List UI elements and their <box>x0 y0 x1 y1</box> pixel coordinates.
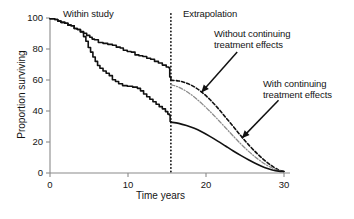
annotation-with-line2: treatment effects <box>263 89 332 100</box>
y-tick-label-100: 100 <box>17 12 43 23</box>
arrow-without-shaft <box>201 52 237 92</box>
annotation-without-continuing-treatment-effects: Without continuing treatment effects <box>214 28 290 50</box>
y-tick-label-20: 20 <box>17 136 43 147</box>
x-tick-label-30: 30 <box>272 179 296 190</box>
y-axis-ticks <box>46 18 50 173</box>
annotation-with-continuing-treatment-effects: With continuing treatment effects <box>263 78 332 100</box>
curve-lower-study-arm <box>50 19 171 122</box>
y-tick-label-80: 80 <box>17 43 43 54</box>
x-tick-label-20: 20 <box>194 179 218 190</box>
annotation-within-study: Within study <box>63 8 114 19</box>
y-tick-label-60: 60 <box>17 74 43 85</box>
annotation-extrapolation: Extrapolation <box>183 8 237 19</box>
x-tick-label-0: 0 <box>38 179 62 190</box>
y-tick-label-40: 40 <box>17 105 43 116</box>
annotation-without-line1: Without continuing <box>214 28 290 39</box>
annotation-without-line2: treatment effects <box>214 39 290 50</box>
survival-extrapolation-chart: Within study Extrapolation Without conti… <box>0 0 354 219</box>
annotation-with-line1: With continuing <box>263 78 332 89</box>
curve-upper-study-arm <box>50 19 171 81</box>
x-tick-label-10: 10 <box>116 179 140 190</box>
y-tick-label-0: 0 <box>17 167 43 178</box>
x-axis-ticks <box>50 173 284 177</box>
arrow-with-shaft <box>242 100 279 138</box>
x-axis-title: Time years <box>136 190 185 201</box>
